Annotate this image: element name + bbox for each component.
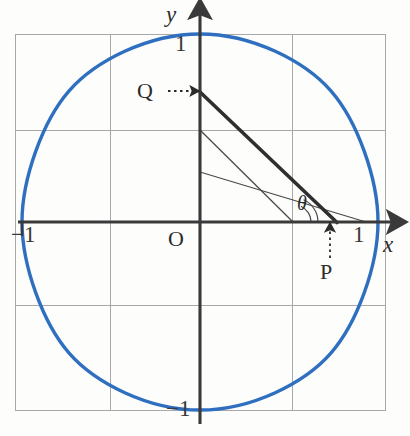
tangent-line-qp (200, 92, 337, 223)
chord-line-2 (200, 172, 366, 222)
tangent-segment (200, 92, 337, 223)
point-p-label: P (320, 259, 332, 285)
figure-canvas (0, 0, 410, 436)
x-tick-positive-label: 1 (353, 222, 365, 248)
auxiliary-lines (200, 130, 366, 222)
astroid-arc-q4 (200, 222, 378, 410)
angle-theta-label: θ (297, 192, 307, 215)
origin-label: O (168, 226, 184, 252)
y-tick-negative-label: −1 (166, 396, 190, 422)
point-q-label: Q (137, 78, 153, 104)
astroid-arc-q1 (200, 34, 378, 222)
astroid-figure: y x 1 −1 1 −1 O Q P θ (0, 0, 410, 436)
leader-arrows (168, 91, 330, 258)
x-tick-negative-label: −1 (11, 222, 35, 248)
y-tick-positive-label: 1 (175, 31, 187, 57)
y-axis-label: y (166, 2, 176, 28)
x-axis-label: x (383, 232, 393, 258)
